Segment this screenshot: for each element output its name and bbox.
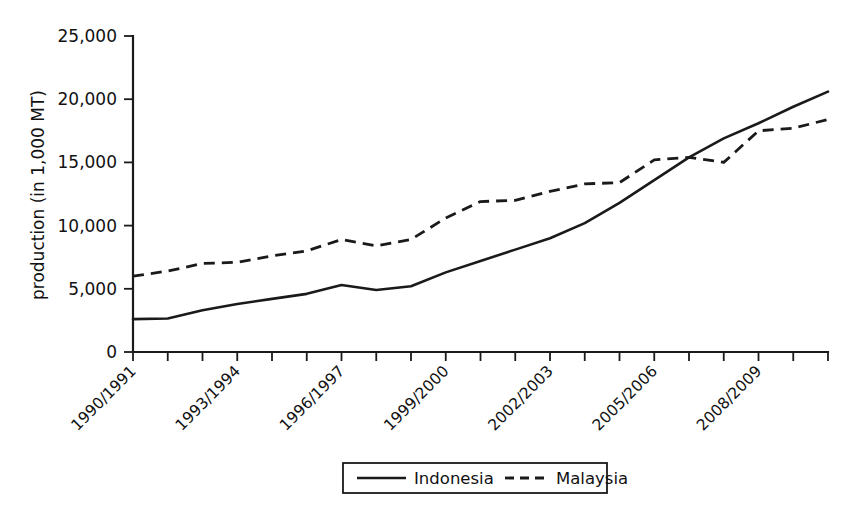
y-tick-label: 5,000 <box>68 279 117 299</box>
y-axis-title: production (in 1,000 MT) <box>28 90 48 300</box>
series-line-indonesia <box>133 92 828 320</box>
legend-label-malaysia: Malaysia <box>556 469 628 488</box>
y-axis-ticks: 05,00010,00015,00020,00025,000 <box>58 26 133 362</box>
line-chart: production (in 1,000 MT) 05,00010,00015,… <box>0 0 854 524</box>
x-tick-label: 1996/1997 <box>276 362 348 434</box>
x-tick-label: 1990/1991 <box>68 362 140 434</box>
x-tick-label: 1993/1994 <box>172 362 244 434</box>
y-axis-title-label: production (in 1,000 MT) <box>28 90 48 300</box>
x-axis-labels: 1990/19911993/19941996/19971999/20002002… <box>68 362 766 434</box>
x-axis-ticks <box>133 352 828 361</box>
legend-label-indonesia: Indonesia <box>414 469 494 488</box>
y-tick-label: 20,000 <box>58 89 117 109</box>
y-tick-label: 15,000 <box>58 152 117 172</box>
chart-container: production (in 1,000 MT) 05,00010,00015,… <box>0 0 854 524</box>
series-line-malaysia <box>133 119 828 276</box>
x-tick-label: 2002/2003 <box>485 362 557 434</box>
y-tick-label: 0 <box>106 342 117 362</box>
y-tick-label: 10,000 <box>58 216 117 236</box>
data-series-group <box>133 92 828 320</box>
x-tick-label: 2005/2006 <box>589 362 661 434</box>
chart-legend: Indonesia Malaysia <box>343 463 628 493</box>
x-tick-label: 1999/2000 <box>380 362 452 434</box>
y-tick-label: 25,000 <box>58 26 117 46</box>
x-tick-label: 2008/2009 <box>693 362 765 434</box>
